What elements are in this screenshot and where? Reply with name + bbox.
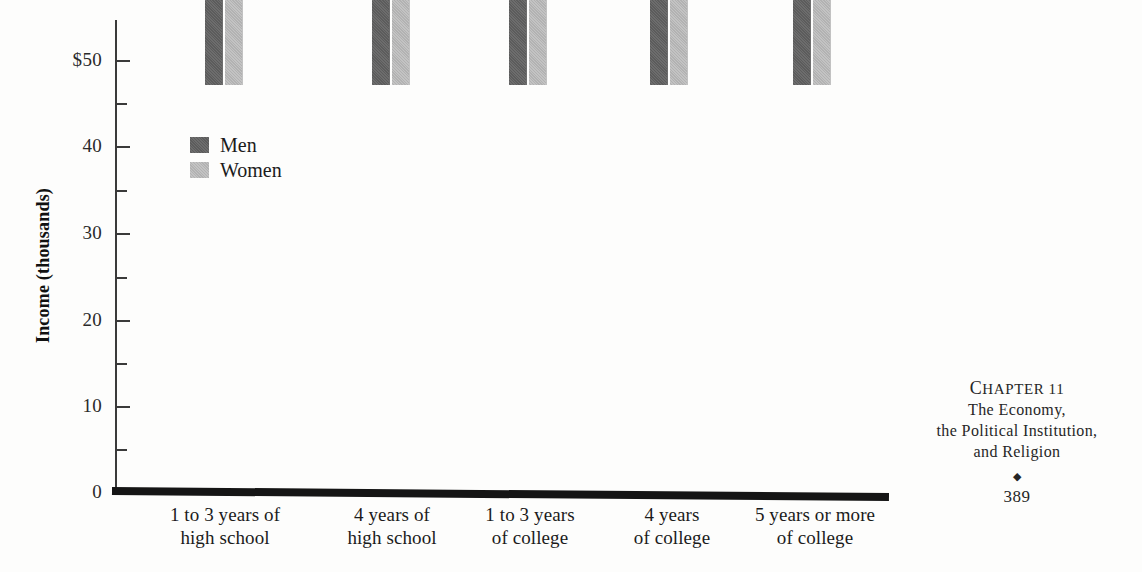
y-tick-minor-15 [117, 363, 127, 365]
bar-women-4[interactable] [670, 0, 688, 85]
bar-group-2 [372, 0, 410, 85]
running-head: CHAPTER 11 The Economy, the Political In… [900, 378, 1134, 508]
y-tick-label-10: 10 [46, 396, 102, 415]
bar-men-2[interactable] [372, 0, 390, 85]
bar-men-1[interactable] [205, 0, 223, 85]
chapter-title-line-2: the Political Institution, [900, 420, 1134, 441]
y-tick-50 [117, 60, 130, 62]
y-axis-line [115, 20, 117, 495]
x-label-group-5: 5 years or more of college [730, 503, 900, 549]
bar-men-3[interactable] [509, 0, 527, 85]
x-label-group-4-line-1: 4 years [592, 503, 752, 526]
chapter-line: CHAPTER 11 [900, 378, 1134, 399]
x-label-group-5-line-2: of college [730, 526, 900, 549]
y-tick-20 [117, 320, 130, 322]
bar-men-5[interactable] [793, 0, 811, 85]
chapter-rest: HAPTER 11 [982, 381, 1064, 397]
legend-swatch-men-icon [190, 137, 209, 153]
y-tick-label-30-wrap: 30 [46, 223, 102, 242]
x-label-group-1-line-2: high school [144, 526, 306, 549]
chart-legend: Men Women [190, 132, 282, 182]
bar-chart: Income (thousands) $50 40 30 20 10 0 [0, 0, 900, 572]
y-tick-label-40-wrap: 40 [46, 136, 102, 155]
y-tick-minor-25 [117, 277, 127, 279]
y-tick-minor-5 [117, 449, 127, 451]
bar-women-1[interactable] [225, 0, 243, 85]
bar-women-5[interactable] [813, 0, 831, 85]
x-axis-line [112, 487, 889, 501]
y-tick-label-10-wrap: 10 [46, 396, 102, 415]
chapter-title-line-1: The Economy, [900, 399, 1134, 420]
x-label-group-3: 1 to 3 years of college [450, 503, 610, 549]
legend-item-men[interactable]: Men [190, 132, 282, 157]
x-label-group-4-line-2: of college [592, 526, 752, 549]
x-label-group-2: 4 years of high school [312, 503, 472, 549]
x-label-group-3-line-2: of college [450, 526, 610, 549]
x-label-group-1-line-1: 1 to 3 years of [144, 503, 306, 526]
y-tick-label-0: 0 [46, 482, 102, 501]
bar-group-4 [650, 0, 688, 85]
bar-group-1 [205, 0, 243, 85]
y-tick-10 [117, 406, 130, 408]
x-label-group-1: 1 to 3 years of high school [144, 503, 306, 549]
bar-women-3[interactable] [529, 0, 547, 85]
y-tick-label-50-wrap: $50 [46, 50, 102, 69]
legend-label-men: Men [220, 135, 257, 155]
x-label-group-2-line-2: high school [312, 526, 472, 549]
x-label-group-4: 4 years of college [592, 503, 752, 549]
chapter-drop-cap: C [970, 378, 983, 398]
y-tick-30 [117, 233, 130, 235]
legend-item-women[interactable]: Women [190, 157, 282, 182]
y-tick-40 [117, 146, 130, 148]
y-axis-title: Income (thousands) [33, 151, 54, 381]
x-label-group-3-line-1: 1 to 3 years [450, 503, 610, 526]
y-tick-minor-45 [117, 103, 127, 105]
book-page: Income (thousands) $50 40 30 20 10 0 [0, 0, 1142, 572]
legend-label-women: Women [220, 160, 282, 180]
y-tick-label-30: 30 [46, 223, 102, 242]
y-tick-label-40: 40 [46, 136, 102, 155]
bar-group-3 [509, 0, 547, 85]
bar-women-2[interactable] [392, 0, 410, 85]
x-label-group-5-line-1: 5 years or more [730, 503, 900, 526]
y-tick-label-0-wrap: 0 [46, 482, 102, 501]
x-label-group-2-line-1: 4 years of [312, 503, 472, 526]
page-number: 389 [900, 486, 1134, 508]
y-tick-label-20-wrap: 20 [46, 310, 102, 329]
y-tick-label-20: 20 [46, 310, 102, 329]
bar-group-5 [793, 0, 831, 85]
legend-swatch-women-icon [190, 162, 209, 178]
chapter-title-line-3: and Religion [900, 441, 1134, 462]
y-tick-label-50: $50 [46, 50, 102, 69]
bar-men-4[interactable] [650, 0, 668, 85]
diamond-ornament-icon: ◆ [900, 466, 1134, 486]
y-tick-minor-35 [117, 190, 127, 192]
